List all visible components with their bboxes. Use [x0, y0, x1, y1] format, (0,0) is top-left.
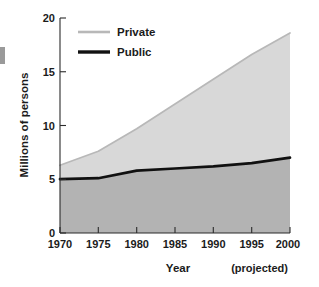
- projected-note: (projected): [231, 262, 288, 274]
- x-tick-label: 1970: [48, 238, 72, 250]
- y-tick-label: 15: [43, 66, 55, 78]
- area-chart-canvas: 20 15 10 5 0 1970 1975 1980 1985 1990 19…: [0, 0, 319, 287]
- x-tick-label: 2000: [276, 238, 300, 250]
- legend-label-private: Private: [117, 26, 155, 38]
- legend-item-private: Private: [78, 26, 155, 38]
- x-tick-label: 1975: [86, 238, 110, 250]
- x-tick-label: 1985: [163, 238, 187, 250]
- y-tick-label: 20: [43, 12, 55, 24]
- page-edge-mark: [0, 47, 5, 64]
- legend-item-public: Public: [78, 46, 152, 58]
- x-axis-tick-labels: 1970 1975 1980 1985 1990 1995 2000: [48, 238, 300, 250]
- chart-legend: Private Public: [78, 26, 155, 58]
- legend-label-public: Public: [117, 46, 152, 58]
- chart-figure: 20 15 10 5 0 1970 1975 1980 1985 1990 19…: [0, 0, 319, 287]
- x-tick-label: 1990: [201, 238, 225, 250]
- x-axis-title: Year: [166, 262, 191, 274]
- x-tick-label: 1980: [124, 238, 148, 250]
- y-tick-label: 5: [49, 173, 55, 185]
- x-tick-label: 1995: [239, 238, 263, 250]
- y-tick-label: 10: [43, 120, 55, 132]
- y-axis-title: Millions of persons: [18, 73, 30, 178]
- y-axis-tick-labels: 20 15 10 5 0: [43, 12, 55, 239]
